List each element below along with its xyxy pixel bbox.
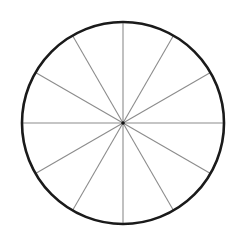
center-point	[121, 121, 125, 125]
divided-circle-diagram	[0, 0, 240, 245]
